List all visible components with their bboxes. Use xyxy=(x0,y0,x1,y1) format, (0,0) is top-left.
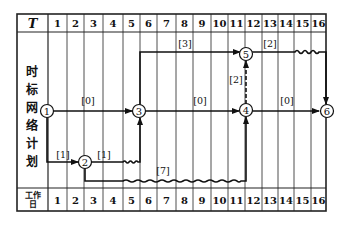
svg-text:10: 10 xyxy=(213,195,227,206)
header-day: 13 xyxy=(263,18,277,29)
activity-3-5 xyxy=(140,52,240,105)
header-day: 7 xyxy=(163,18,170,29)
footer-row: 工作 日 1 2 3 4 5 6 7 8 9 10 11 12 13 14 15… xyxy=(25,190,326,209)
svg-text:8: 8 xyxy=(181,195,188,206)
header-day: 9 xyxy=(199,18,206,29)
svg-text:9: 9 xyxy=(199,195,206,206)
svg-text:13: 13 xyxy=(263,195,277,206)
float-label-2-4: [7] xyxy=(156,165,169,176)
float-label-1-3: [0] xyxy=(81,95,94,106)
float-label-2-3: [1] xyxy=(97,149,110,160)
node-4: 4 xyxy=(240,104,253,117)
header-day: 14 xyxy=(279,18,293,29)
svg-text:计: 计 xyxy=(26,136,38,151)
node-3: 3 xyxy=(133,105,146,118)
svg-text:6: 6 xyxy=(324,106,330,117)
float-label-3-4: [0] xyxy=(193,95,206,106)
svg-text:时: 时 xyxy=(26,64,38,79)
svg-text:3: 3 xyxy=(90,195,97,206)
svg-text:7: 7 xyxy=(163,195,170,206)
header-day: 4 xyxy=(110,18,117,29)
node-6: 6 xyxy=(321,105,334,118)
header-row: T 1 2 3 4 5 6 7 8 9 10 11 12 13 14 15 16 xyxy=(28,16,326,31)
header-day: 10 xyxy=(213,18,227,29)
header-day: 1 xyxy=(54,18,61,29)
svg-text:16: 16 xyxy=(312,195,326,206)
node-1: 1 xyxy=(41,105,54,118)
svg-text:5: 5 xyxy=(243,49,249,60)
svg-text:4: 4 xyxy=(110,195,117,206)
svg-text:2: 2 xyxy=(72,195,79,206)
header-day: 16 xyxy=(312,18,326,29)
svg-text:14: 14 xyxy=(279,195,293,206)
node-5: 5 xyxy=(240,48,253,61)
float-label-4-5: [2] xyxy=(229,74,242,85)
header-day: 15 xyxy=(296,18,310,29)
header-day: 5 xyxy=(128,18,135,29)
svg-text:12: 12 xyxy=(247,195,261,206)
svg-text:4: 4 xyxy=(243,105,249,116)
side-label: 时 标 网 络 计 划 xyxy=(25,64,38,169)
header-day: 8 xyxy=(181,18,188,29)
svg-text:划: 划 xyxy=(26,154,38,169)
workday-label: 日 xyxy=(29,199,37,209)
float-labels: [0] [1] [1] [7] [3] [0] [2] [2] [0] xyxy=(56,38,293,176)
svg-text:11: 11 xyxy=(230,195,244,206)
header-day: 11 xyxy=(230,18,244,29)
float-label-4-6: [0] xyxy=(280,95,293,106)
float-label-3-5: [3] xyxy=(178,38,191,49)
node-2: 2 xyxy=(79,156,92,169)
svg-text:1: 1 xyxy=(44,106,50,117)
svg-text:3: 3 xyxy=(136,106,142,117)
time-axis-label: T xyxy=(28,16,39,31)
svg-text:6: 6 xyxy=(145,195,152,206)
svg-text:1: 1 xyxy=(54,195,61,206)
svg-text:络: 络 xyxy=(26,118,38,133)
header-day: 6 xyxy=(145,18,152,29)
svg-text:5: 5 xyxy=(128,195,135,206)
header-day: 2 xyxy=(72,18,79,29)
time-scaled-network-diagram: T 1 2 3 4 5 6 7 8 9 10 11 12 13 14 15 16… xyxy=(0,0,346,226)
header-day: 12 xyxy=(247,18,261,29)
svg-text:标: 标 xyxy=(25,82,38,97)
svg-text:网: 网 xyxy=(26,101,38,115)
svg-text:15: 15 xyxy=(296,195,310,206)
svg-text:2: 2 xyxy=(82,157,88,168)
float-label-5-6: [2] xyxy=(263,38,276,49)
header-day: 3 xyxy=(90,18,97,29)
float-label-1-2: [1] xyxy=(56,149,69,160)
